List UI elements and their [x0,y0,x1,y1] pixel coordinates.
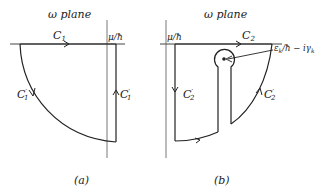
contour-diagram: ω plane C1 μ/ħ C′1 C′1 (a) ω plane μ/ħ C… [0,0,325,193]
panel-a: ω plane C1 μ/ħ C′1 C′1 (a) [10,8,131,187]
label-c1-prime-right: C′1 [120,88,131,102]
contour-c2-prime-arc [231,44,272,124]
axis-mark-mu-b: μ/ħ [167,32,182,42]
axis-mark-mu-a: μ/ħ [108,32,123,42]
contour-c1-prime-arc [20,44,116,142]
plane-label-a: ω plane [48,8,92,21]
label-c2-prime-left: C′2 [183,88,195,102]
label-c2: C2 [242,29,255,43]
label-c1: C1 [53,29,66,43]
label-c1-prime-left: C′1 [17,88,28,102]
label-c2-prime-right: C′2 [264,88,276,102]
plane-label-b: ω plane [204,8,248,21]
caption-b: (b) [214,174,230,187]
panel-b: ω plane μ/ħ C2 C′2 C′2 εk/ħ − iγk (b) [160,8,315,187]
contour-c2-bottom-curve [175,132,218,141]
caption-a: (a) [74,174,89,187]
pole-pointer-line [228,50,273,59]
pole-label: εk/ħ − iγk [274,43,315,54]
